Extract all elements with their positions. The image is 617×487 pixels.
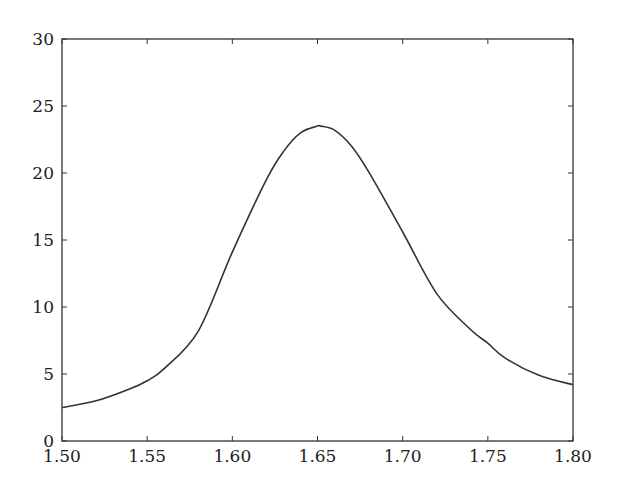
y-axis-ticks: 051015202530	[32, 29, 573, 451]
x-tick-label: 1.60	[213, 446, 251, 466]
plot-frame	[62, 39, 573, 441]
line-chart: 051015202530 1.501.551.601.651.701.751.8…	[0, 0, 617, 487]
x-tick-label: 1.55	[128, 446, 166, 466]
y-tick-label: 25	[32, 96, 54, 116]
data-curve	[62, 125, 573, 407]
x-tick-label: 1.80	[554, 446, 592, 466]
x-tick-label: 1.50	[43, 446, 81, 466]
x-tick-label: 1.65	[299, 446, 337, 466]
y-tick-label: 30	[32, 29, 54, 49]
y-tick-label: 5	[43, 364, 54, 384]
x-tick-label: 1.70	[384, 446, 422, 466]
y-tick-label: 10	[32, 297, 54, 317]
y-tick-label: 15	[32, 230, 54, 250]
x-axis-ticks: 1.501.551.601.651.701.751.80	[43, 39, 592, 466]
y-tick-label: 20	[32, 163, 54, 183]
x-tick-label: 1.75	[469, 446, 507, 466]
